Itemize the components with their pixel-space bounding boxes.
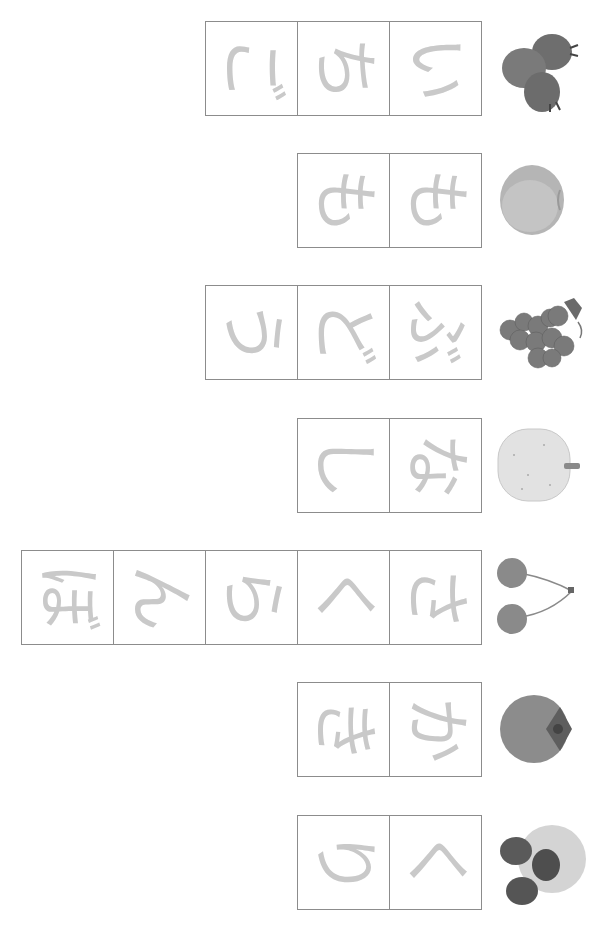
cherries-picture xyxy=(494,547,594,647)
trace-character: ぶ xyxy=(403,300,469,366)
trace-character: い xyxy=(403,36,469,102)
trace-character: う xyxy=(219,300,285,366)
tracing-box[interactable]: も xyxy=(297,153,390,248)
word-row-budou: ぶ ど う xyxy=(206,285,482,380)
word-row-sakuranbo: さ く ら ん ぼ xyxy=(22,550,482,645)
trace-character: ぼ xyxy=(35,565,101,631)
tracing-box[interactable]: し xyxy=(297,418,390,513)
word-row-momo: も も xyxy=(298,153,482,248)
tracing-box[interactable]: き xyxy=(297,682,390,777)
trace-character: も xyxy=(403,168,469,234)
tracing-box[interactable]: ん xyxy=(113,550,206,645)
trace-character: ご xyxy=(219,36,285,102)
trace-character: ん xyxy=(127,565,193,631)
trace-character: り xyxy=(311,830,377,896)
tracing-box[interactable]: も xyxy=(389,153,482,248)
tracing-box[interactable]: く xyxy=(297,550,390,645)
trace-character: か xyxy=(403,697,469,763)
tracing-box[interactable]: か xyxy=(389,682,482,777)
tracing-box[interactable]: い xyxy=(389,21,482,116)
trace-character: ら xyxy=(219,565,285,631)
tracing-box[interactable]: り xyxy=(297,815,390,910)
word-row-kuri: く り xyxy=(298,815,482,910)
trace-character: な xyxy=(403,433,469,499)
strawberry-picture xyxy=(494,18,594,118)
tracing-box[interactable]: ぶ xyxy=(389,285,482,380)
word-row-kaki: か き xyxy=(298,682,482,777)
grapes-picture xyxy=(494,282,594,382)
trace-character: ど xyxy=(311,300,377,366)
tracing-box[interactable]: う xyxy=(205,285,298,380)
trace-character: く xyxy=(403,830,469,896)
chestnut-picture xyxy=(494,815,594,915)
trace-character: し xyxy=(311,433,377,499)
tracing-box[interactable]: さ xyxy=(389,550,482,645)
tracing-box[interactable]: ど xyxy=(297,285,390,380)
trace-character: く xyxy=(311,565,377,631)
pear-picture xyxy=(494,415,594,515)
trace-character: き xyxy=(311,697,377,763)
trace-character: ち xyxy=(311,36,377,102)
peach-picture xyxy=(494,150,594,250)
tracing-box[interactable]: な xyxy=(389,418,482,513)
tracing-box[interactable]: ち xyxy=(297,21,390,116)
tracing-box[interactable]: ら xyxy=(205,550,298,645)
trace-character: も xyxy=(311,168,377,234)
tracing-box[interactable]: ぼ xyxy=(21,550,114,645)
tracing-box[interactable]: ご xyxy=(205,21,298,116)
trace-character: さ xyxy=(403,565,469,631)
persimmon-picture xyxy=(494,679,594,779)
tracing-box[interactable]: く xyxy=(389,815,482,910)
word-row-nashi: な し xyxy=(298,418,482,513)
word-row-ichigo: い ち ご xyxy=(206,21,482,116)
